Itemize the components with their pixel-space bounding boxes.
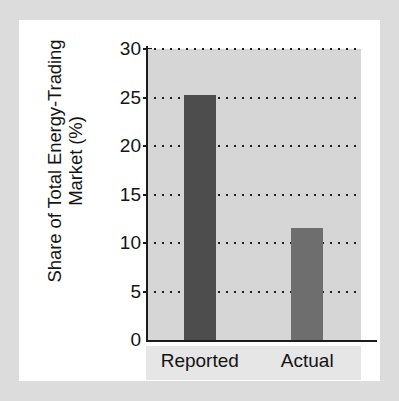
y-tick-label-0: 0 [97, 329, 141, 351]
y-tick-label-30: 30 [97, 38, 141, 60]
bar-actual [291, 228, 323, 340]
x-axis-label-actual: Actual [281, 350, 334, 372]
gridline-5 [146, 291, 361, 293]
gridline-15 [146, 194, 361, 196]
plot-area [146, 49, 361, 340]
y-tick-label-10: 10 [97, 232, 141, 254]
x-axis-label-reported: Reported [161, 350, 239, 372]
y-axis-title-text: Share of Total Energy-Trading Market (%) [44, 40, 87, 283]
y-axis-title: Share of Total Energy-Trading Market (%) [42, 21, 88, 301]
y-tick-label-25: 25 [97, 87, 141, 109]
figure-panel: Share of Total Energy-Trading Market (%)… [19, 20, 380, 381]
gridline-25 [146, 97, 361, 99]
y-tick-label-15: 15 [97, 184, 141, 206]
bar-reported [184, 95, 216, 340]
gridline-20 [146, 145, 361, 147]
chart-screenshot: Share of Total Energy-Trading Market (%)… [0, 0, 399, 401]
y-axis-title-line-2: Market (%) [65, 40, 86, 283]
y-axis-ticks: 051015202530 [97, 20, 141, 381]
y-axis-title-line-1: Share of Total Energy-Trading [44, 40, 65, 283]
y-axis-line [146, 46, 148, 342]
x-axis-baseline [146, 340, 377, 342]
x-axis-labels: ReportedActual [146, 346, 361, 380]
bar-chart-figure: Share of Total Energy-Trading Market (%)… [19, 20, 380, 381]
y-tick-label-20: 20 [97, 135, 141, 157]
gridline-30 [146, 48, 361, 50]
gridline-10 [146, 242, 361, 244]
y-tick-label-5: 5 [97, 281, 141, 303]
